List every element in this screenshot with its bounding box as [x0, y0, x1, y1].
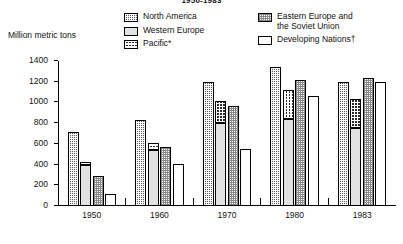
y-tick-label: 1400 — [29, 56, 48, 65]
bar-north-america — [270, 67, 281, 206]
bar-eastern-europe — [228, 106, 239, 206]
x-tick-label-1980: 1980 — [285, 210, 304, 220]
legend-label-eastern-europe: Eastern Europe and the Soviet Union — [277, 12, 353, 31]
bar-eastern-europe — [363, 78, 374, 206]
checker-dark-swatch-icon — [124, 13, 138, 22]
bar-developing-nations — [173, 164, 184, 206]
light-gray-swatch-icon — [124, 27, 138, 36]
legend-column-2: Eastern Europe and the Soviet Union Deve… — [258, 12, 355, 48]
bar-pacific — [148, 143, 159, 150]
bar-north-america — [68, 132, 79, 206]
bar-western-europe — [215, 123, 226, 206]
y-tick-label: 400 — [34, 160, 48, 169]
bar-western-europe — [350, 128, 361, 206]
bar-group-1983: 1983 — [328, 61, 396, 206]
bar-developing-nations — [240, 149, 251, 206]
legend-label-north-america: North America — [143, 12, 197, 22]
bar-pacific — [80, 162, 91, 165]
legend-label-western-europe: Western Europe — [143, 26, 204, 36]
chart-legend: North America Western Europe Pacific* Ea… — [124, 12, 402, 58]
bar-eastern-europe — [93, 176, 104, 206]
x-tick-label-1960: 1960 — [150, 210, 169, 220]
bar-eastern-europe — [160, 147, 171, 206]
legend-label-pacific: Pacific* — [143, 39, 171, 49]
x-tick-label-1983: 1983 — [353, 210, 372, 220]
bar-developing-nations — [105, 194, 116, 206]
bar-western-europe — [148, 150, 159, 206]
legend-item-western-europe: Western Europe — [124, 26, 204, 36]
bar-north-america — [338, 82, 349, 206]
legend-item-eastern-europe: Eastern Europe and the Soviet Union — [258, 12, 355, 31]
legend-item-north-america: North America — [124, 12, 204, 22]
white-swatch-icon — [258, 36, 272, 45]
bar-developing-nations — [308, 96, 319, 206]
bar-pacific — [350, 99, 361, 127]
bar-north-america — [135, 120, 146, 206]
y-axis-title: Million metric tons — [8, 30, 76, 40]
plot-area: 0200400600800100012001400 19501960197019… — [58, 61, 396, 206]
legend-column-1: North America Western Europe Pacific* — [124, 12, 204, 53]
bar-pacific — [215, 101, 226, 123]
y-tick-label: 0 — [43, 201, 48, 210]
bar-eastern-europe — [295, 80, 306, 206]
bar-north-america — [203, 82, 214, 206]
legend-item-pacific: Pacific* — [124, 39, 204, 49]
bar-pacific — [283, 90, 294, 119]
x-tick-label-1950: 1950 — [82, 210, 101, 220]
bar-group-1950: 1950 — [58, 61, 126, 206]
dotted-swatch-icon — [258, 13, 272, 22]
y-tick-label: 200 — [34, 180, 48, 189]
bar-western-europe — [80, 165, 91, 206]
checker-bold-swatch-icon — [124, 40, 138, 49]
bar-group-1960: 1960 — [126, 61, 194, 206]
legend-label-developing: Developing Nations† — [277, 35, 355, 45]
y-tick-label: 600 — [34, 139, 48, 148]
bar-group-1980: 1980 — [261, 61, 329, 206]
bar-western-europe — [283, 119, 294, 206]
bar-group-1970: 1970 — [193, 61, 261, 206]
x-tick-label-1970: 1970 — [218, 210, 237, 220]
legend-item-developing: Developing Nations† — [258, 35, 355, 45]
y-tick-label: 1200 — [29, 77, 48, 86]
chart-title: 1950-1983 — [0, 0, 403, 5]
y-tick-label: 800 — [34, 118, 48, 127]
y-tick-label: 1000 — [29, 97, 48, 106]
bar-developing-nations — [375, 82, 386, 206]
